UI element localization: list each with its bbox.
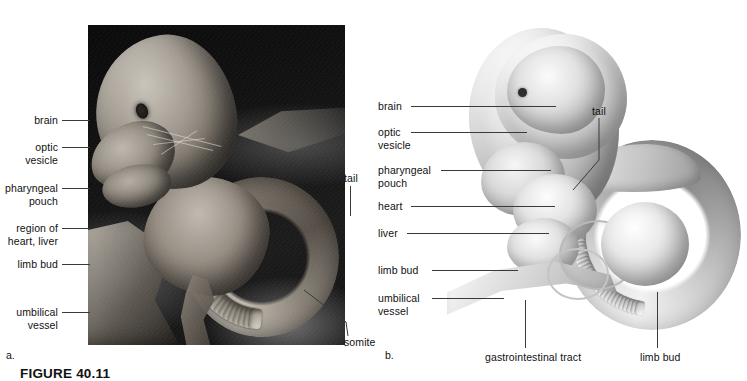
leader-b-limb-bud-bottom bbox=[657, 292, 658, 348]
label-a-umbilical-vessel: umbilical vessel bbox=[0, 306, 58, 331]
panel-b-letter: b. bbox=[385, 349, 394, 361]
label-a-optic-vesicle: optic vesicle bbox=[0, 141, 58, 166]
leader-b-liver bbox=[407, 233, 549, 234]
leader-b-gastrointestinal-tract bbox=[525, 300, 526, 348]
leader-b-limb-bud bbox=[432, 270, 518, 271]
leader-b-brain bbox=[411, 106, 556, 107]
leader-a-pharyngeal-pouch bbox=[62, 188, 90, 189]
label-a-tail: tail bbox=[344, 172, 374, 185]
leader-a-optic-vesicle bbox=[62, 147, 90, 148]
leader-a-tail bbox=[350, 186, 351, 216]
leader-b-umbilical-vessel bbox=[432, 298, 504, 299]
panel-a-letter: a. bbox=[6, 349, 15, 361]
label-a-heart-liver: region of heart, liver bbox=[0, 222, 58, 247]
leader-b-pharyngeal-pouch bbox=[441, 170, 551, 171]
illustration-optic-vesicle bbox=[518, 88, 527, 97]
label-b-gastrointestinal-tract: gastrointestinal tract bbox=[485, 351, 635, 364]
label-b-umbilical-vessel: umbilical vessel bbox=[378, 292, 440, 317]
label-a-pharyngeal-pouch: pharyngeal pouch bbox=[0, 182, 58, 207]
leader-a-heart-liver bbox=[62, 228, 90, 229]
leader-a-limb-bud bbox=[62, 264, 90, 265]
illustration-limb-bud bbox=[601, 202, 689, 286]
illustration-gi-loop bbox=[547, 248, 609, 300]
label-b-optic-vesicle: optic vesicle bbox=[378, 126, 438, 151]
label-b-limb-bud-bottom: limb bud bbox=[640, 351, 710, 364]
leader-a-brain bbox=[62, 120, 90, 121]
label-b-tail: tail bbox=[592, 105, 622, 118]
panel-b: brain optic vesicle pharyngeal pouch hea… bbox=[375, 0, 747, 374]
leader-a-umbilical-vessel bbox=[62, 312, 90, 313]
leader-a-somite bbox=[300, 288, 356, 336]
leader-b-tail bbox=[571, 118, 607, 190]
label-a-brain: brain bbox=[0, 114, 58, 127]
leader-b-heart bbox=[411, 206, 555, 207]
panel-a: brain optic vesicle pharyngeal pouch reg… bbox=[0, 0, 375, 360]
figure-caption: FIGURE 40.11 bbox=[20, 366, 110, 381]
label-b-pharyngeal-pouch: pharyngeal pouch bbox=[378, 164, 446, 189]
label-a-limb-bud: limb bud bbox=[0, 258, 58, 271]
label-b-limb-bud: limb bud bbox=[378, 264, 440, 277]
leader-b-optic-vesicle bbox=[411, 132, 527, 133]
